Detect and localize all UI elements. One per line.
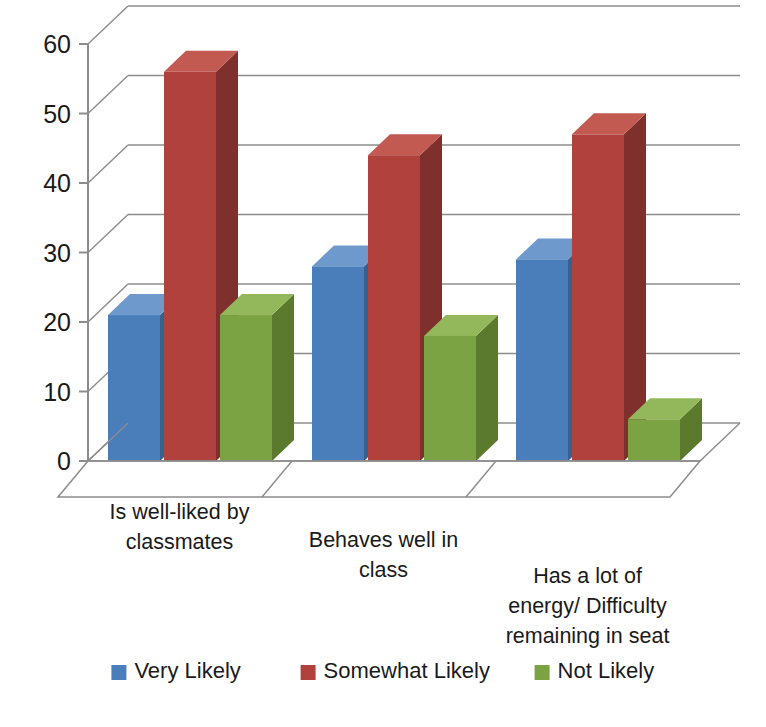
category-label-line: classmates bbox=[126, 530, 234, 554]
bar-front-face bbox=[220, 315, 272, 461]
bar-side-face bbox=[272, 294, 294, 461]
category-label-line: Has a lot of bbox=[533, 564, 642, 588]
legend-item-somewhat-likely[interactable]: Somewhat Likely bbox=[301, 658, 490, 683]
bar-front-face bbox=[424, 336, 476, 461]
y-tick-label: 60 bbox=[43, 30, 71, 58]
bar-somewhat-likely-cat3 bbox=[572, 113, 646, 461]
category-label-line: Behaves well in bbox=[309, 528, 458, 552]
bar-front-face bbox=[312, 266, 364, 461]
legend-label: Very Likely bbox=[134, 658, 240, 683]
y-tick-label: 20 bbox=[43, 308, 71, 336]
category-label-line: remaining in seat bbox=[506, 624, 670, 648]
bar-front-face bbox=[628, 419, 680, 461]
y-tick-label: 50 bbox=[43, 100, 71, 128]
legend-swatch bbox=[301, 665, 316, 680]
legend-label: Not Likely bbox=[558, 658, 655, 683]
category-label-line: Is well-liked by bbox=[110, 500, 250, 524]
category-label-line: class bbox=[359, 558, 408, 582]
bar-not-likely-cat2 bbox=[424, 315, 498, 461]
chart-container: 6050403020100 Is well-liked byclassmates… bbox=[0, 0, 766, 727]
legend-label: Somewhat Likely bbox=[324, 658, 490, 683]
legend-swatch bbox=[535, 665, 550, 680]
legend-swatch bbox=[111, 665, 126, 680]
y-tick-label: 10 bbox=[43, 378, 71, 406]
y-tick-label: 30 bbox=[43, 239, 71, 267]
y-tick-label: 40 bbox=[43, 169, 71, 197]
bar-front-face bbox=[108, 315, 160, 461]
bar-front-face bbox=[572, 134, 624, 461]
bar-side-face bbox=[476, 315, 498, 461]
y-tick-label: 0 bbox=[57, 447, 71, 475]
bar-front-face bbox=[164, 72, 216, 461]
category-label-line: energy/ Difficulty bbox=[508, 594, 667, 618]
bar-front-face bbox=[516, 259, 568, 461]
bar-chart-3d: 6050403020100 Is well-liked byclassmates… bbox=[0, 0, 766, 727]
bar-front-face bbox=[368, 155, 420, 461]
bar-not-likely-cat1 bbox=[220, 294, 294, 461]
legend-group: Very LikelySomewhat LikelyNot Likely bbox=[111, 658, 654, 683]
